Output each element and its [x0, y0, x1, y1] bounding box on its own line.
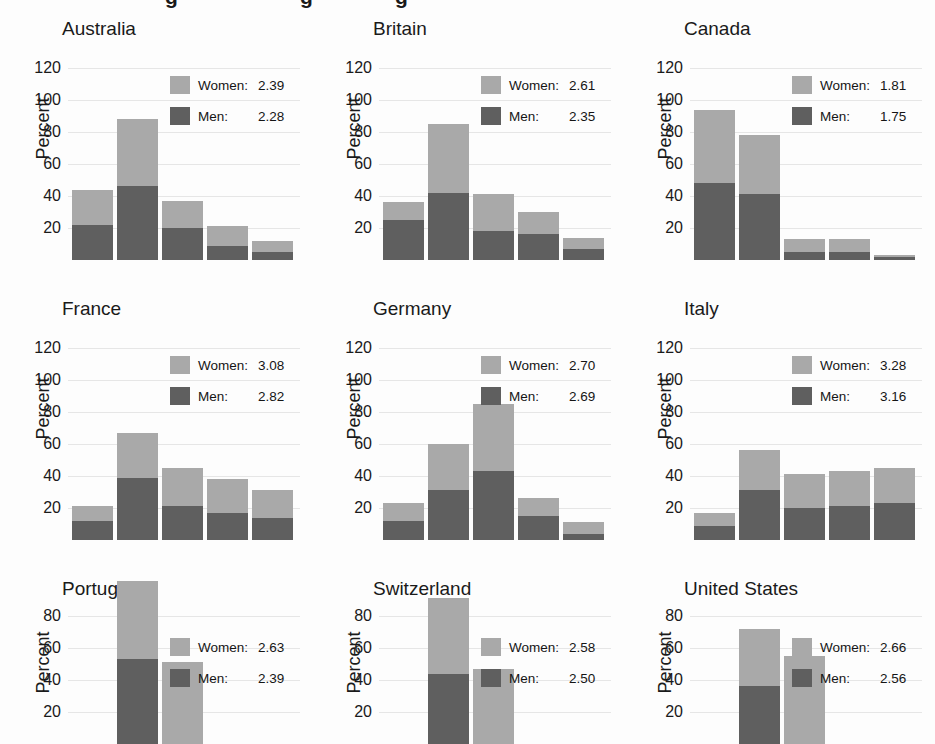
bar-segment-women[interactable] [694, 513, 735, 526]
bar-segment-women[interactable] [428, 598, 469, 673]
bar-segment-men[interactable] [694, 526, 735, 540]
bar-segment-men[interactable] [473, 231, 514, 260]
bar-segment-men[interactable] [739, 194, 780, 260]
stacked-bar[interactable] [383, 202, 424, 260]
bar-segment-women[interactable] [383, 202, 424, 220]
bar-segment-men[interactable] [162, 228, 203, 260]
legend-item-women[interactable]: Women:2.39 [170, 76, 284, 94]
stacked-bar[interactable] [784, 239, 825, 260]
legend-item-men[interactable]: Men:3.16 [792, 387, 906, 405]
bar-segment-men[interactable] [428, 674, 469, 744]
stacked-bar[interactable] [739, 629, 780, 744]
legend-item-women[interactable]: Women:3.28 [792, 356, 906, 374]
bar-segment-women[interactable] [162, 468, 203, 506]
bar-segment-women[interactable] [829, 471, 870, 506]
bar-segment-men[interactable] [694, 183, 735, 260]
stacked-bar[interactable] [383, 503, 424, 540]
bar-segment-women[interactable] [207, 479, 248, 513]
legend-item-women[interactable]: Women:2.63 [170, 638, 284, 656]
bar-segment-women[interactable] [739, 135, 780, 194]
stacked-bar[interactable] [428, 444, 469, 540]
stacked-bar[interactable] [207, 479, 248, 540]
legend-item-men[interactable]: Men:2.50 [481, 669, 595, 687]
bar-segment-women[interactable] [117, 433, 158, 478]
legend-item-men[interactable]: Men:2.69 [481, 387, 595, 405]
bar-segment-women[interactable] [739, 629, 780, 687]
stacked-bar[interactable] [252, 490, 293, 540]
stacked-bar[interactable] [72, 190, 113, 260]
legend-item-men[interactable]: Men:2.35 [481, 107, 595, 125]
stacked-bar[interactable] [874, 255, 915, 260]
legend-item-women[interactable]: Women:3.08 [170, 356, 284, 374]
bar-segment-men[interactable] [739, 490, 780, 540]
stacked-bar[interactable] [829, 239, 870, 260]
bar-segment-women[interactable] [252, 490, 293, 517]
bar-segment-women[interactable] [473, 194, 514, 231]
stacked-bar[interactable] [518, 212, 559, 260]
stacked-bar[interactable] [473, 194, 514, 260]
bar-segment-women[interactable] [518, 498, 559, 516]
bar-segment-men[interactable] [563, 534, 604, 540]
bar-segment-women[interactable] [739, 450, 780, 490]
bar-segment-men[interactable] [383, 220, 424, 260]
bar-segment-men[interactable] [117, 478, 158, 540]
bar-segment-men[interactable] [383, 521, 424, 540]
bar-segment-men[interactable] [428, 193, 469, 260]
legend-item-women[interactable]: Women:2.58 [481, 638, 595, 656]
stacked-bar[interactable] [563, 238, 604, 260]
stacked-bar[interactable] [117, 581, 158, 744]
bar-segment-women[interactable] [694, 110, 735, 184]
bar-segment-men[interactable] [428, 490, 469, 540]
bar-segment-men[interactable] [784, 508, 825, 540]
stacked-bar[interactable] [874, 468, 915, 540]
legend-item-women[interactable]: Women:1.81 [792, 76, 906, 94]
stacked-bar[interactable] [252, 241, 293, 260]
bar-segment-women[interactable] [207, 226, 248, 245]
bar-segment-men[interactable] [252, 518, 293, 540]
stacked-bar[interactable] [473, 404, 514, 540]
bar-segment-women[interactable] [784, 474, 825, 508]
bar-segment-men[interactable] [874, 257, 915, 260]
legend-item-men[interactable]: Men:2.56 [792, 669, 906, 687]
legend-item-men[interactable]: Men:1.75 [792, 107, 906, 125]
bar-segment-women[interactable] [428, 444, 469, 490]
stacked-bar[interactable] [518, 498, 559, 540]
bar-segment-women[interactable] [563, 238, 604, 249]
bar-segment-men[interactable] [72, 225, 113, 260]
stacked-bar[interactable] [72, 506, 113, 540]
bar-segment-men[interactable] [207, 246, 248, 260]
bar-segment-men[interactable] [117, 186, 158, 260]
legend-item-men[interactable]: Men:2.28 [170, 107, 284, 125]
bar-segment-women[interactable] [383, 503, 424, 521]
legend-item-men[interactable]: Men:2.82 [170, 387, 284, 405]
stacked-bar[interactable] [694, 513, 735, 540]
bar-segment-men[interactable] [72, 521, 113, 540]
bar-segment-men[interactable] [518, 234, 559, 260]
bar-segment-women[interactable] [252, 241, 293, 252]
stacked-bar[interactable] [117, 433, 158, 540]
stacked-bar[interactable] [784, 474, 825, 540]
bar-segment-women[interactable] [829, 239, 870, 252]
bar-segment-women[interactable] [72, 190, 113, 225]
stacked-bar[interactable] [829, 471, 870, 540]
stacked-bar[interactable] [428, 124, 469, 260]
stacked-bar[interactable] [563, 522, 604, 540]
bar-segment-men[interactable] [829, 252, 870, 260]
stacked-bar[interactable] [694, 110, 735, 260]
bar-segment-women[interactable] [72, 506, 113, 520]
bar-segment-women[interactable] [428, 124, 469, 193]
bar-segment-women[interactable] [162, 201, 203, 228]
bar-segment-men[interactable] [829, 506, 870, 540]
bar-segment-men[interactable] [784, 252, 825, 260]
bar-segment-men[interactable] [473, 471, 514, 540]
bar-segment-men[interactable] [874, 503, 915, 540]
bar-segment-men[interactable] [117, 659, 158, 744]
bar-segment-men[interactable] [739, 686, 780, 744]
legend-item-women[interactable]: Women:2.70 [481, 356, 595, 374]
legend-item-women[interactable]: Women:2.66 [792, 638, 906, 656]
stacked-bar[interactable] [739, 450, 780, 540]
legend-item-men[interactable]: Men:2.39 [170, 669, 284, 687]
stacked-bar[interactable] [739, 135, 780, 260]
bar-segment-men[interactable] [162, 506, 203, 540]
stacked-bar[interactable] [162, 468, 203, 540]
